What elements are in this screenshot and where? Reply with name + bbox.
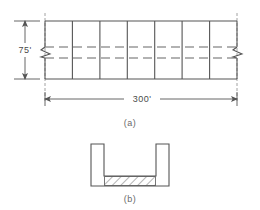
- height-dimension-label: 75': [18, 45, 31, 55]
- figure-a-elevation: 75' 300' (a): [12, 13, 242, 128]
- figure-a-caption: (a): [124, 118, 137, 128]
- break-symbol-right: [233, 47, 242, 58]
- mid-floor-dashed-lines: [45, 47, 237, 58]
- drawing-canvas: 75' 300' (a) (b): [0, 0, 260, 210]
- interior-columns: [72, 21, 209, 79]
- figure-b-section: (b): [91, 144, 169, 204]
- span-dimension-label: 300': [133, 94, 152, 104]
- break-symbol-left: [41, 47, 50, 58]
- technical-drawing-svg: 75' 300' (a) (b): [0, 0, 260, 210]
- channel-hatch-fill: [105, 177, 156, 186]
- height-dimension-group: 75': [12, 21, 40, 79]
- span-dimension-group: 300': [45, 92, 237, 106]
- figure-b-caption: (b): [124, 194, 137, 204]
